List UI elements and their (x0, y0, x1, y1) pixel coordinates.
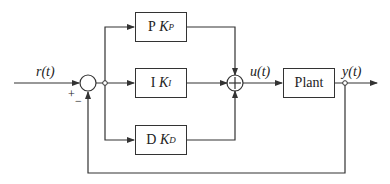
p-block: P KP (135, 12, 187, 42)
d-block-prefix: D (146, 132, 156, 148)
d-block-subscript: D (169, 135, 176, 145)
minus-sign: − (75, 95, 82, 107)
p-block-prefix: P (148, 19, 156, 35)
i-block-subscript: I (168, 78, 171, 88)
output-signal-label: y(t) (342, 65, 361, 79)
p-to-adder-arrow (187, 27, 235, 75)
d-block: D KD (135, 125, 187, 155)
error-summing-junction (80, 75, 96, 91)
plus-sign: + (68, 88, 75, 100)
d-block-gain: K (160, 132, 169, 148)
d-to-adder-arrow (187, 91, 235, 140)
error-to-p-arrow (105, 27, 134, 83)
p-block-subscript: P (169, 22, 175, 32)
reference-signal-label: r(t) (36, 65, 55, 79)
i-block-prefix: I (151, 75, 156, 91)
error-branch-node (103, 81, 108, 86)
i-block: I KI (135, 68, 187, 98)
i-block-gain: K (159, 75, 168, 91)
p-block-gain: K (159, 19, 168, 35)
error-to-d-arrow (105, 83, 134, 140)
plant-label: Plant (295, 75, 324, 91)
control-signal-label: u(t) (250, 65, 270, 79)
output-pickoff-node (343, 81, 348, 86)
plant-block: Plant (283, 68, 335, 98)
